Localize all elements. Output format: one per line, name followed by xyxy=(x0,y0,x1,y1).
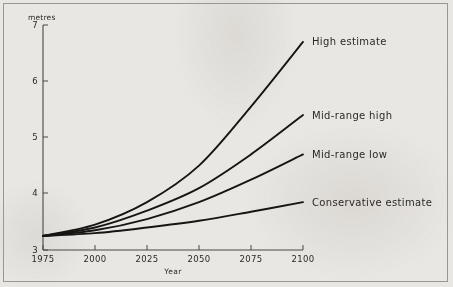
sea-level-rise-line-chart: metres 7 6 5 4 3 1975 2000 2025 xyxy=(0,0,453,287)
curve-mid-range-high xyxy=(43,115,303,236)
y-axis-ticks xyxy=(43,25,48,250)
x-tick-label-2075: 2075 xyxy=(240,254,263,264)
chart-page: metres 7 6 5 4 3 1975 2000 2025 xyxy=(0,0,453,287)
series-label-mid-range-high: Mid-range high xyxy=(312,110,392,121)
x-tick-label-2100: 2100 xyxy=(292,254,315,264)
x-axis-ticks xyxy=(43,245,303,250)
curve-high-estimate xyxy=(43,42,303,236)
x-tick-label-2050: 2050 xyxy=(188,254,211,264)
x-tick-label-1975: 1975 xyxy=(32,254,55,264)
series-label-conservative-estimate: Conservative estimate xyxy=(312,197,432,208)
series-label-high-estimate: High estimate xyxy=(312,36,387,47)
x-tick-label-2025: 2025 xyxy=(136,254,159,264)
y-tick-label-6: 6 xyxy=(32,76,38,86)
series-label-mid-range-low: Mid-range low xyxy=(312,149,387,160)
x-axis-title: Year xyxy=(163,267,182,276)
y-tick-label-7: 7 xyxy=(32,20,38,30)
x-tick-label-2000: 2000 xyxy=(84,254,107,264)
y-tick-label-5: 5 xyxy=(32,132,38,142)
y-tick-label-4: 4 xyxy=(32,188,38,198)
